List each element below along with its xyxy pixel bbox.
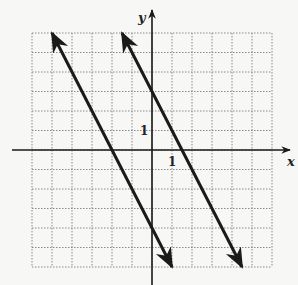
- x-axis-label: x: [286, 154, 295, 169]
- coordinate-plane: x y 1 1: [0, 0, 298, 285]
- y-tick-label: 1: [140, 124, 148, 138]
- y-axis-label: y: [137, 10, 147, 25]
- x-tick-label: 1: [168, 155, 176, 169]
